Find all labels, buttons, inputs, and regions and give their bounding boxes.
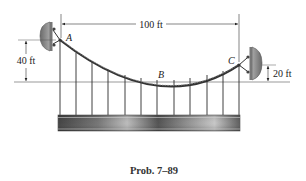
point-a-label: A: [65, 32, 73, 43]
right-height-dimension: 20 ft: [262, 65, 292, 81]
left-height-label: 40 ft: [17, 55, 36, 66]
point-b-label: B: [158, 69, 164, 80]
point-c-label: C: [228, 55, 235, 66]
span-label: 100 ft: [139, 19, 163, 30]
suspension-cable-diagram: 100 ft 40 ft 20 ft A B C Prob. 7–89: [0, 0, 306, 181]
deck: [58, 115, 240, 131]
left-support: [40, 22, 62, 51]
span-dimension: 100 ft: [61, 14, 239, 62]
right-height-label: 20 ft: [273, 68, 292, 79]
cable: [60, 40, 239, 86]
figure-caption: Prob. 7–89: [130, 165, 178, 176]
right-support: [237, 47, 262, 80]
